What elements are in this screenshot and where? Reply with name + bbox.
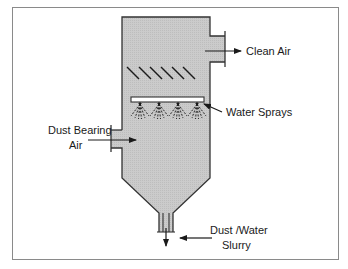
water-sprays-label: Water Sprays (226, 106, 293, 118)
scrubber-vessel (111, 17, 225, 232)
dust-bearing-label-line2: Air (69, 139, 83, 151)
scrubber-diagram: Clean Air Water Sprays Dust Bearing Air … (0, 0, 348, 269)
clean-air-label: Clean Air (246, 45, 291, 57)
dust-bearing-label-line1: Dust Bearing (48, 124, 112, 136)
slurry-label-line2: Slurry (222, 239, 251, 251)
spray-header-bar (131, 97, 204, 102)
slurry-label-line1: Dust /Water (210, 224, 268, 236)
